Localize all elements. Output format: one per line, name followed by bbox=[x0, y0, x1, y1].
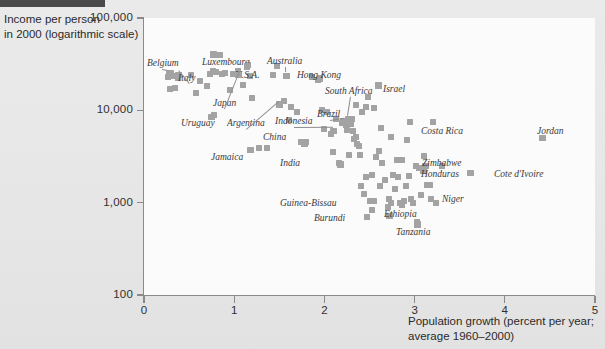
point-label-indonesia: Indonesia bbox=[275, 116, 312, 126]
data-point bbox=[204, 83, 210, 89]
point-label-honduras: Honduras bbox=[421, 169, 459, 179]
point-label-china: China bbox=[263, 132, 286, 142]
label-leader-line bbox=[347, 97, 351, 115]
data-point bbox=[388, 134, 394, 140]
data-point bbox=[337, 161, 344, 168]
y-tick-label: 10,000 bbox=[97, 103, 133, 115]
data-point bbox=[382, 177, 388, 183]
data-point bbox=[244, 63, 251, 70]
y-tick-mark bbox=[137, 110, 144, 111]
x-tick-mark bbox=[234, 296, 235, 303]
point-label-australia: Australia bbox=[267, 56, 302, 66]
data-point bbox=[403, 183, 409, 189]
y-tick-label: 100,000 bbox=[90, 11, 133, 23]
data-point bbox=[399, 157, 405, 163]
data-point bbox=[166, 71, 173, 78]
data-point bbox=[330, 149, 336, 155]
data-point bbox=[377, 183, 383, 189]
chart-figure: Income per person in 2000 (logarithmic s… bbox=[0, 0, 605, 349]
x-tick-mark bbox=[324, 296, 325, 303]
data-point bbox=[364, 214, 371, 221]
data-point bbox=[410, 200, 416, 206]
x-tick-mark bbox=[594, 296, 595, 303]
data-point bbox=[376, 148, 382, 154]
data-point bbox=[353, 134, 359, 140]
point-label-niger: Niger bbox=[442, 194, 464, 204]
point-label-hong-kong: Hong Kong bbox=[297, 70, 341, 80]
data-point bbox=[406, 173, 412, 179]
data-point bbox=[371, 198, 377, 204]
data-point bbox=[240, 82, 246, 88]
y-axis-line bbox=[143, 18, 144, 296]
point-label-belgium: Belgium bbox=[147, 58, 179, 68]
point-label-costa-rica: Costa Rica bbox=[421, 126, 463, 136]
x-tick-label: 0 bbox=[124, 304, 164, 316]
y-tick-mark bbox=[137, 202, 144, 203]
data-point bbox=[433, 200, 439, 206]
page-header-bar bbox=[0, 0, 105, 7]
point-label-jamaica: Jamaica bbox=[211, 152, 243, 162]
data-point bbox=[369, 207, 376, 214]
point-label-india: India bbox=[280, 158, 300, 168]
point-label-ethiopia: Ethiopia bbox=[384, 209, 417, 219]
data-point bbox=[356, 143, 362, 149]
data-point bbox=[430, 119, 436, 125]
data-point bbox=[358, 183, 364, 189]
point-label-burundi: Burundi bbox=[314, 213, 345, 223]
data-point bbox=[353, 102, 359, 108]
data-point bbox=[375, 82, 382, 89]
label-leader-line bbox=[285, 67, 286, 72]
data-point bbox=[270, 72, 276, 78]
point-label-uruguay: Uruguay bbox=[181, 118, 215, 128]
data-point bbox=[350, 128, 356, 134]
x-axis-title-line1: Population growth (percent per year; bbox=[408, 314, 594, 329]
data-point bbox=[294, 109, 300, 115]
point-label-luxembourg: Luxembourg bbox=[202, 57, 250, 67]
x-axis-line bbox=[143, 295, 595, 296]
data-point bbox=[249, 95, 255, 101]
y-tick-label: 1,000 bbox=[103, 196, 133, 208]
y-axis-title-line2: in 2000 (logarithmic scale) bbox=[4, 27, 138, 42]
x-axis-title-line2: average 1960–2000) bbox=[408, 329, 594, 344]
x-tick-mark bbox=[143, 296, 144, 303]
y-tick-label: 100 bbox=[113, 288, 133, 300]
data-point bbox=[427, 182, 433, 188]
data-point bbox=[301, 140, 308, 147]
point-label-israel: Israel bbox=[383, 84, 405, 94]
data-point bbox=[344, 127, 350, 133]
point-label-tanzania: Tanzania bbox=[396, 227, 431, 237]
data-point bbox=[359, 109, 365, 115]
point-label-zimbabwe: Zimbabwe bbox=[422, 158, 462, 168]
data-point bbox=[378, 125, 384, 131]
point-label-guinea-bissau: Guinea-Bissau bbox=[280, 198, 336, 208]
data-point bbox=[288, 104, 294, 110]
data-point bbox=[330, 128, 337, 135]
data-point bbox=[363, 174, 369, 180]
data-point bbox=[404, 137, 410, 143]
point-label-jordan: Jordan bbox=[537, 126, 564, 136]
x-tick-label: 2 bbox=[304, 304, 344, 316]
point-label-south-africa: South Africa bbox=[325, 86, 373, 96]
point-label-argentina: Argentina bbox=[227, 118, 265, 128]
y-tick-mark bbox=[137, 17, 144, 18]
data-point bbox=[357, 152, 363, 158]
data-point bbox=[247, 147, 254, 154]
data-point bbox=[388, 200, 394, 206]
data-point bbox=[379, 160, 385, 166]
x-tick-mark bbox=[504, 296, 505, 303]
data-point bbox=[428, 196, 435, 203]
data-point bbox=[256, 145, 262, 151]
data-point bbox=[283, 73, 290, 80]
data-point bbox=[392, 186, 398, 192]
x-tick-mark bbox=[414, 296, 415, 303]
label-leader-line bbox=[294, 127, 333, 128]
x-axis-title: Population growth (percent per year; ave… bbox=[408, 314, 594, 343]
point-label-brazil: Brazil bbox=[317, 109, 340, 119]
data-point bbox=[373, 154, 379, 160]
data-point bbox=[197, 78, 203, 84]
data-point bbox=[401, 198, 407, 204]
data-point bbox=[395, 174, 401, 180]
data-point bbox=[369, 172, 375, 178]
data-point bbox=[264, 145, 270, 151]
data-point bbox=[193, 90, 199, 96]
